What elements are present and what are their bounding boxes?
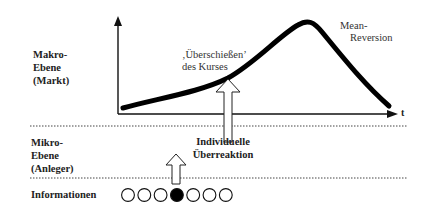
overshoot-annotation: ‚Überschießen’ des Kurses (182, 49, 247, 73)
mean-reversion-line: Reversion (340, 32, 393, 44)
macro-level-label: Makro- Ebene (Markt) (33, 48, 69, 87)
x-axis-arrowhead (387, 110, 398, 118)
y-axis-arrowhead (114, 16, 122, 26)
macro-label-line: (Markt) (33, 74, 69, 87)
individual-line: Überreaktion (175, 148, 271, 161)
information-circles (122, 189, 233, 202)
information-circle-filled (171, 189, 184, 202)
information-circle (138, 189, 151, 202)
overshoot-line: ‚Überschießen’ (182, 49, 247, 61)
micro-label-line: Ebene (31, 149, 74, 162)
micro-level-label: Mikro- Ebene (Anleger) (31, 136, 74, 175)
individual-line: Individuelle (175, 135, 271, 148)
x-axis-label: t (401, 106, 404, 119)
information-circle (187, 189, 200, 202)
information-circle (219, 189, 232, 202)
micro-label-line: (Anleger) (31, 162, 74, 175)
macro-label-line: Ebene (33, 61, 69, 74)
overreaction-impact-arrow (216, 79, 240, 142)
information-circle (203, 189, 216, 202)
mean-reversion-line: Mean- (340, 20, 393, 32)
overshoot-line: des Kurses (182, 61, 247, 73)
macro-label-line: Makro- (33, 48, 69, 61)
information-circle (122, 189, 135, 202)
mean-reversion-annotation: Mean- Reversion (340, 20, 393, 44)
individual-overreaction-label: Individuelle Überreaktion (175, 135, 271, 161)
micro-label-line: Mikro- (31, 136, 74, 149)
information-label: Informationen (31, 188, 96, 201)
information-circle (154, 189, 167, 202)
